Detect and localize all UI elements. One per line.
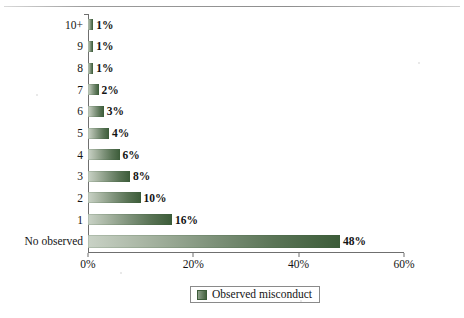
bar (88, 149, 120, 160)
category-label: No observed (25, 235, 83, 247)
category-label: 5 (77, 127, 83, 139)
category-label: 2 (77, 192, 83, 204)
category-label: 6 (77, 105, 83, 117)
x-axis-tick (298, 253, 299, 257)
bar (88, 214, 172, 225)
scan-speck (120, 272, 122, 274)
bar (88, 192, 141, 203)
bar (88, 171, 130, 182)
x-axis-tick (88, 253, 89, 257)
x-axis-tick-label: 60% (393, 258, 414, 271)
bar-value-label: 4% (112, 127, 129, 139)
bar-rows: 10+1%91%81%72%63%54%46%38%210%116%No obs… (88, 14, 403, 252)
bar-value-label: 1% (96, 19, 113, 31)
bar-value-label: 10% (144, 192, 167, 204)
bar (88, 41, 93, 52)
bar-row: 72% (88, 79, 403, 101)
bar (88, 63, 93, 74)
bar-row: 10+1% (88, 14, 403, 36)
bar-row: No observed48% (88, 230, 403, 252)
bar-row: 81% (88, 57, 403, 79)
x-axis-tick (193, 253, 194, 257)
x-axis-ticks: 0%20%40%60% (88, 253, 404, 271)
category-label: 8 (77, 62, 83, 74)
bar-row: 54% (88, 122, 403, 144)
scan-speck (418, 62, 420, 64)
x-axis-tick-label: 20% (183, 258, 204, 271)
x-axis-tick-label: 40% (288, 258, 309, 271)
bar (88, 128, 109, 139)
legend-series-label: Observed misconduct (212, 288, 312, 301)
category-label: 4 (77, 149, 83, 161)
x-axis-tick-label: 0% (80, 258, 95, 271)
page-rule-divider (4, 6, 460, 7)
bar-value-label: 2% (102, 84, 119, 96)
bar-row: 91% (88, 36, 403, 58)
bar-value-label: 8% (133, 170, 150, 182)
scan-speck (36, 94, 38, 96)
bar-row: 210% (88, 187, 403, 209)
bar-value-label: 6% (123, 149, 140, 161)
page-top-text-fragment (228, 0, 298, 4)
x-axis-tick (404, 253, 405, 257)
bar (88, 235, 340, 248)
category-label: 3 (77, 170, 83, 182)
bar-value-label: 16% (175, 214, 198, 226)
bar (88, 84, 99, 95)
bar-value-label: 1% (96, 62, 113, 74)
bar (88, 19, 93, 30)
legend-swatch-icon (197, 290, 207, 300)
bar-row: 38% (88, 165, 403, 187)
category-label: 9 (77, 40, 83, 52)
plot-area: 10+1%91%81%72%63%54%46%38%210%116%No obs… (88, 14, 403, 252)
bar-row: 116% (88, 209, 403, 231)
bar (88, 106, 104, 117)
bar-value-label: 3% (107, 105, 124, 117)
category-label: 7 (77, 84, 83, 96)
category-label: 1 (77, 214, 83, 226)
bar-value-label: 48% (343, 235, 366, 247)
bar-chart-figure: 10+1%91%81%72%63%54%46%38%210%116%No obs… (0, 0, 464, 318)
bar-value-label: 1% (96, 40, 113, 52)
bar-row: 63% (88, 101, 403, 123)
bar-row: 46% (88, 144, 403, 166)
chart-legend: Observed misconduct (190, 286, 320, 303)
category-label: 10+ (65, 19, 83, 31)
